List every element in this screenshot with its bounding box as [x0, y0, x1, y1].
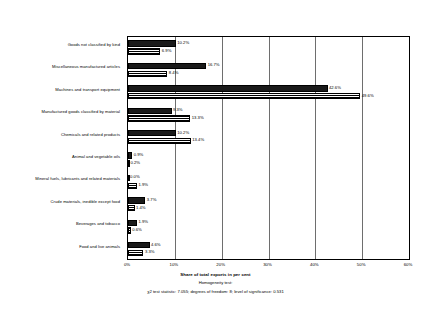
- bar-group: 1.9%0.6%: [128, 216, 409, 238]
- bar: [128, 85, 328, 91]
- bar-value-label: 16.7%: [206, 62, 219, 67]
- bar: [128, 242, 150, 248]
- x-tick-label: 10%: [170, 262, 179, 268]
- bar-value-label: 10.2%: [176, 40, 189, 45]
- bar: [128, 63, 206, 69]
- bar: [128, 93, 360, 99]
- bar-group: 3.7%1.4%: [128, 194, 409, 216]
- x-tick-label: 50%: [357, 262, 366, 268]
- bar: [128, 130, 176, 136]
- x-tick-label: 30%: [263, 262, 272, 268]
- bar-group: 0.0%1.9%: [128, 171, 409, 193]
- bar-value-label: 0.2%: [129, 160, 140, 165]
- bar-value-label: 49.6%: [360, 93, 373, 98]
- x-tick-label: 20%: [216, 262, 225, 268]
- category-axis-labels: Goods not classified by kindMiscellaneou…: [0, 36, 124, 260]
- bar: [128, 250, 143, 256]
- bar-value-label: 8.4%: [167, 70, 178, 75]
- bar-value-label: 1.9%: [137, 182, 148, 187]
- category-label: Beverages and tobacco: [76, 221, 120, 226]
- bar-value-label: 0.6%: [131, 227, 142, 232]
- category-label: Mineral fuels, lubricants and related ma…: [35, 176, 120, 181]
- homogeneity-test-statistics: χ2 test statistic: 7.055; degrees of fre…: [0, 289, 431, 294]
- x-axis-title: Share of total exports in per cent: [0, 272, 431, 277]
- bar-value-label: 10.2%: [176, 130, 189, 135]
- bar-group: 10.2%13.4%: [128, 127, 409, 149]
- bar-value-label: 13.4%: [191, 137, 204, 142]
- category-label: Animal and vegetable oils: [72, 154, 120, 159]
- bar-value-label: 9.3%: [172, 107, 183, 112]
- bar: [128, 108, 172, 114]
- bar: [128, 71, 167, 77]
- category-label: Manufactured goods classified by materia…: [41, 109, 120, 114]
- category-label: Food and live animals: [79, 244, 120, 249]
- bar-value-label: 1.4%: [135, 205, 146, 210]
- bar-value-label: 1.9%: [137, 219, 148, 224]
- bar-group: 0.9%0.2%: [128, 149, 409, 171]
- bar-value-label: 4.6%: [150, 242, 161, 247]
- bar: [128, 183, 137, 189]
- category-label: Chemicals and related products: [61, 132, 120, 137]
- bar: [128, 48, 160, 54]
- bar: [128, 220, 137, 226]
- bar-group: 9.3%13.3%: [128, 104, 409, 126]
- bar: [128, 115, 190, 121]
- bar-value-label: 0.0%: [129, 174, 140, 179]
- x-tick-label: 40%: [310, 262, 319, 268]
- bar: [128, 197, 145, 203]
- bar: [128, 40, 176, 46]
- x-tick-label: 0%: [124, 262, 130, 268]
- bar-value-label: 0.9%: [132, 152, 143, 157]
- bar-group: 10.2%6.9%: [128, 37, 409, 59]
- bar-value-label: 3.3%: [143, 249, 154, 254]
- bar-group: 4.6%3.3%: [128, 239, 409, 261]
- x-axis-ticks: 0%10%20%30%40%50%60%: [127, 262, 410, 270]
- plot-area: 10.2%6.9%16.7%8.4%42.6%49.6%9.3%13.3%10.…: [127, 36, 410, 260]
- bar-value-label: 42.6%: [328, 85, 341, 90]
- chart-container: Goods not classified by kindMiscellaneou…: [0, 0, 431, 309]
- category-label: Miscellaneous manufactured articles: [52, 64, 120, 69]
- x-tick-label: 60%: [404, 262, 413, 268]
- bar: [128, 138, 191, 144]
- category-label: Machines and transport equipment: [55, 87, 120, 92]
- homogeneity-test-label: Homogeneity test:: [0, 280, 431, 285]
- bar-value-label: 6.9%: [160, 48, 171, 53]
- category-label: Crude materials, inedible except food: [51, 199, 120, 204]
- category-label: Goods not classified by kind: [68, 42, 120, 47]
- bar-group: 16.7%8.4%: [128, 59, 409, 81]
- bar-value-label: 3.7%: [145, 197, 156, 202]
- bar-value-label: 13.3%: [190, 115, 203, 120]
- bar-group: 42.6%49.6%: [128, 82, 409, 104]
